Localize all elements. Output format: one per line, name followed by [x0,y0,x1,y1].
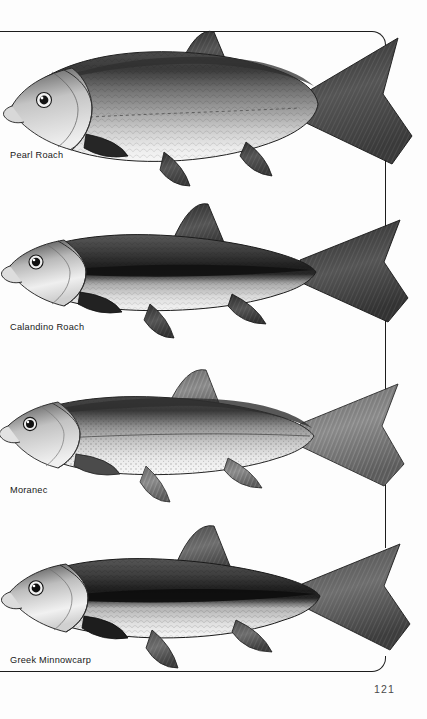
eye-highlight [33,585,36,588]
fish-illustration-moranec [0,368,427,528]
fish-illustration-greek-minnowcarp [0,518,427,698]
plate-label-2: Calandino Roach [10,322,84,332]
fish-head [10,564,88,632]
book-page: Pearl Roach [0,0,427,719]
plate-label-1: Pearl Roach [10,150,63,160]
pupil [32,258,40,266]
eye-highlight [27,421,29,423]
pupil [32,584,41,593]
page-number: 121 [374,683,395,695]
plate-pearl-roach [0,14,427,194]
plate-moranec [0,368,427,528]
plate-label-3: Moranec [10,485,48,495]
fish-head [10,240,86,306]
eye-highlight [41,97,44,100]
caudal-fin-rays [300,384,404,486]
eye-highlight [33,259,36,262]
fish-illustration-pearl-roach [0,14,427,194]
plate-greek-minnowcarp [0,518,427,698]
fish-head [8,402,80,468]
pupil [40,96,49,105]
fish-head [12,68,92,150]
plate-label-4: Greek Minnowcarp [10,655,91,665]
plate-calandino-roach [0,200,427,365]
fish-illustration-calandino-roach [0,200,427,365]
